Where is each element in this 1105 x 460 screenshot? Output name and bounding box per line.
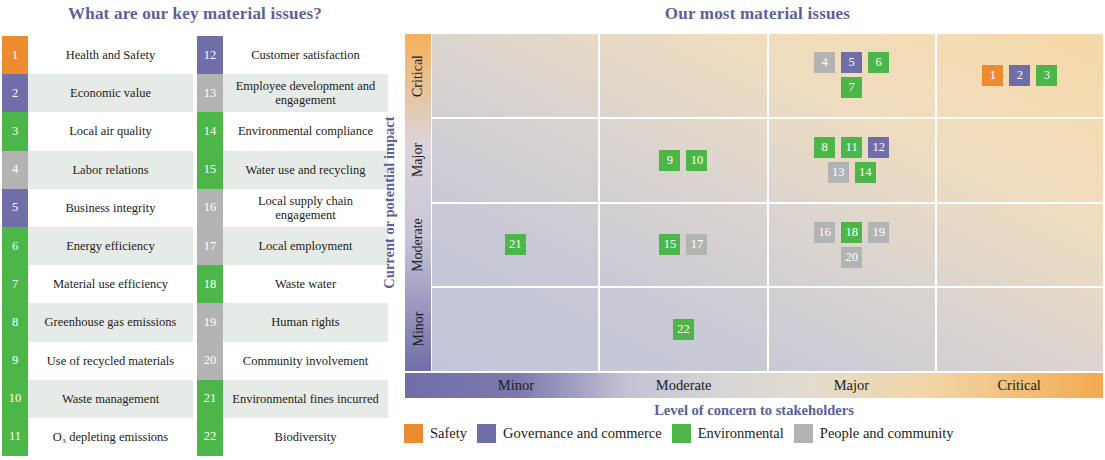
matrix-marker[interactable]: 9 [659,150,680,171]
issue-label: Use of recycled materials [28,342,193,380]
matrix-marker[interactable]: 18 [841,222,862,243]
issue-number-badge: 8 [2,303,28,341]
issue-number-badge: 2 [2,74,28,112]
table-row: 4Labor relations [2,151,193,189]
matrix-row: 22 [432,288,1103,371]
matrix-marker[interactable]: 13 [828,162,849,183]
issues-column-right: 12Customer satisfaction13Employee develo… [197,36,388,456]
matrix-cell[interactable] [432,119,600,202]
legend-item-environmental[interactable]: Environmental [672,424,784,443]
issue-label: Greenhouse gas emissions [28,303,193,341]
matrix-cell[interactable] [937,288,1103,371]
matrix-cell[interactable] [432,288,600,371]
legend-swatch-governance [477,424,496,443]
matrix-marker[interactable]: 22 [673,319,694,340]
matrix-marker[interactable]: 3 [1036,65,1057,86]
matrix-marker[interactable]: 17 [686,234,707,255]
matrix-grid: 45671239108111213142115171618192022 [432,34,1103,371]
matrix-marker-group: 22 [673,319,694,340]
matrix-marker[interactable]: 5 [841,52,862,73]
matrix-marker[interactable]: 4 [814,52,835,73]
matrix-cell[interactable] [769,288,937,371]
issue-number-badge: 22 [197,418,223,456]
legend-item-safety[interactable]: Safety [404,424,467,443]
issue-label: Water use and recycling [223,151,388,189]
matrix-marker[interactable]: 19 [868,222,889,243]
legend-swatch-environmental [672,424,691,443]
issues-column-left: 1Health and Safety2Economic value3Local … [2,36,193,456]
matrix-cell[interactable] [937,204,1103,287]
matrix-marker[interactable]: 12 [868,137,889,158]
matrix-cell[interactable] [937,119,1103,202]
material-issues-table: 1Health and Safety2Economic value3Local … [2,36,388,456]
matrix-marker[interactable]: 10 [686,150,707,171]
issue-label: Material use efficiency [28,265,193,303]
issue-label: Business integrity [28,189,193,227]
matrix-cell[interactable] [432,34,600,117]
matrix-cell[interactable] [600,34,768,117]
table-row: 12Customer satisfaction [197,36,388,74]
matrix-cell[interactable]: 22 [600,288,768,371]
issue-label: Labor relations [28,151,193,189]
issue-number-badge: 15 [197,151,223,189]
issue-number-badge: 18 [197,265,223,303]
table-row: 2Economic value [2,74,193,112]
matrix-marker[interactable]: 8 [814,137,835,158]
matrix-cell[interactable]: 4567 [769,34,937,117]
table-row: 3Local air quality [2,112,193,150]
issue-number-badge: 14 [197,112,223,150]
matrix-row: 4567123 [432,34,1103,119]
matrix-cell[interactable]: 16181920 [769,204,937,287]
matrix-cell[interactable]: 910 [600,119,768,202]
matrix-marker[interactable]: 21 [505,234,526,255]
matrix-cell[interactable]: 811121314 [769,119,937,202]
matrix-marker[interactable]: 11 [841,137,862,158]
table-row: 6Energy efficiency [2,227,193,265]
table-row: 10Waste management [2,380,193,418]
page-title-right: Our most material issues [410,4,1105,24]
matrix-row: 910811121314 [432,119,1103,204]
issue-label: Health and Safety [28,36,193,74]
x-axis-title: Level of concern to stakeholders [405,402,1103,419]
matrix-cell[interactable]: 123 [937,34,1103,117]
matrix-marker-group: 1517 [659,234,707,255]
y-axis-tick: Minor [405,287,431,371]
matrix-marker[interactable]: 2 [1009,65,1030,86]
y-axis-tick-label: Critical [410,55,426,97]
y-axis-tick: Major [405,118,431,202]
materiality-matrix: Current or potential impact CriticalMajo… [380,30,1105,460]
issue-label: Environmental fines incurred [223,380,388,418]
y-axis-title: Current or potential impact [374,30,404,375]
table-row: 20Community involvement [197,342,388,380]
y-axis-tick-label: Minor [410,311,426,346]
matrix-cell[interactable]: 21 [432,204,600,287]
matrix-marker[interactable]: 15 [659,234,680,255]
issue-number-badge: 5 [2,189,28,227]
issue-label: Local air quality [28,112,193,150]
matrix-marker[interactable]: 7 [841,77,862,98]
matrix-cell[interactable]: 1517 [600,204,768,287]
matrix-marker[interactable]: 6 [868,52,889,73]
matrix-marker[interactable]: 20 [841,247,862,268]
table-row: 5Business integrity [2,189,193,227]
issue-number-badge: 17 [197,227,223,265]
matrix-marker[interactable]: 16 [814,222,835,243]
issue-label: Employee development and engagement [223,74,388,112]
legend-item-governance[interactable]: Governance and commerce [477,424,662,443]
issue-number-badge: 11 [2,418,28,456]
matrix-marker-group: 123 [982,65,1057,86]
matrix-marker[interactable]: 1 [982,65,1003,86]
table-row: 17Local employment [197,227,388,265]
table-row: 16Local supply chain engagement [197,189,388,227]
table-row: 8Greenhouse gas emissions [2,303,193,341]
x-axis-tick: Critical [935,373,1103,398]
matrix-marker[interactable]: 14 [855,162,876,183]
x-axis-scale: MinorModerateMajorCritical [405,373,1103,398]
issue-number-badge: 6 [2,227,28,265]
legend-item-people[interactable]: People and community [794,424,954,443]
y-axis-tick-label: Major [410,143,426,177]
legend-swatch-people [794,424,813,443]
issue-number-badge: 1 [2,36,28,74]
issue-label: O₃ depleting emissions [28,418,193,456]
x-axis-corner [405,373,432,398]
